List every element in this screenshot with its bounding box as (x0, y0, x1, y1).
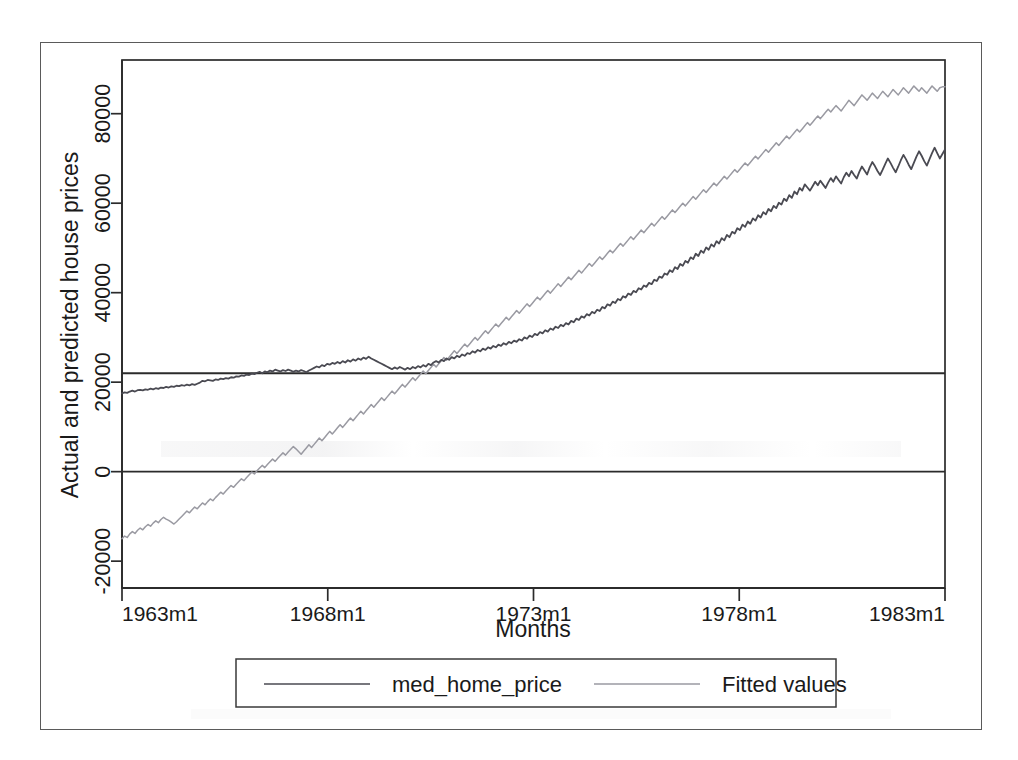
x-tick-label: 1968m1 (290, 602, 366, 625)
x-tick-label: 1978m1 (701, 602, 777, 625)
series-line-med-home-price (122, 148, 945, 394)
legend-label-med-home-price: med_home_price (392, 672, 562, 697)
legend-label-fitted-values: Fitted values (722, 672, 847, 697)
y-axis-tick-labels: 800006000040000200000-20000 (91, 84, 115, 595)
x-tick-label: 1963m1 (122, 602, 198, 625)
reference-lines (122, 373, 945, 471)
plot-area-border (122, 60, 945, 588)
y-axis-title: Actual and predicted house prices (57, 152, 83, 499)
chart-legend: med_home_price Fitted values (236, 659, 847, 707)
house-price-line-chart: Actual and predicted house prices 800006… (0, 0, 1018, 760)
x-axis (122, 588, 945, 601)
x-axis-title: Months (495, 616, 570, 642)
x-tick-label: 1983m1 (869, 602, 945, 625)
